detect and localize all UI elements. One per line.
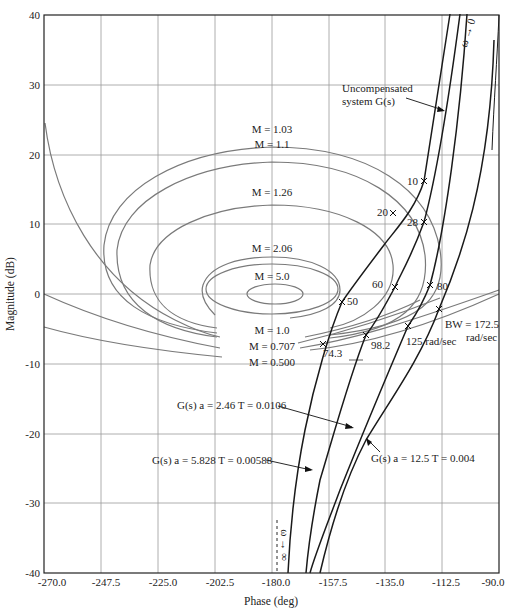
svg-text:-270.0: -270.0 [38,576,67,588]
svg-text:-157.5: -157.5 [319,576,348,588]
svg-text:-135.0: -135.0 [376,576,405,588]
svg-text:M = 0.500: M = 0.500 [249,356,296,368]
svg-text:Uncompensated: Uncompensated [342,82,413,94]
svg-text:-180.0: -180.0 [262,576,291,588]
svg-text:G(s) a = 5.828 T = 0.00588: G(s) a = 5.828 T = 0.00588 [152,454,273,467]
svg-text:-30: -30 [25,497,40,509]
svg-text:0: 0 [35,288,41,300]
m-contour-0-707 [44,294,220,348]
svg-text:-202.5: -202.5 [206,576,235,588]
y-axis-ticks: 40 30 20 10 0 -10 -20 -30 -40 [25,9,40,579]
svg-text:-20: -20 [25,428,40,440]
svg-text:M = 1.0: M = 1.0 [254,324,290,336]
svg-text:-225.0: -225.0 [149,576,178,588]
svg-text:125 rad/sec: 125 rad/sec [406,335,457,347]
svg-text:-90.0: -90.0 [482,576,505,588]
grid-lines [44,15,499,573]
y-axis-title: Magnitude (dB) [4,257,17,331]
svg-text:-10: -10 [25,358,40,370]
m-contour-1-03 [104,147,442,335]
frequency-markers [320,178,442,347]
m-contour-2-06 [202,257,340,318]
svg-text:40: 40 [29,9,41,21]
svg-text:G(s) a = 2.46 T = 0.0106: G(s) a = 2.46 T = 0.0106 [177,399,287,412]
m-contour-1-26 [150,205,393,328]
svg-text:system G(s): system G(s) [342,95,395,108]
svg-text:20: 20 [29,149,41,161]
svg-text:10: 10 [29,218,41,230]
svg-text:10: 10 [407,175,419,187]
x-axis-title: Phase (deg) [244,595,298,608]
svg-text:M = 2.06: M = 2.06 [252,242,293,254]
svg-text:-247.5: -247.5 [92,576,121,588]
svg-text:28: 28 [407,216,419,228]
svg-text:ω → 0: ω → 0 [457,17,478,49]
svg-text:G(s) a = 12.5 T = 0.004: G(s) a = 12.5 T = 0.004 [371,452,475,465]
m-contour-0-500 [44,327,222,357]
nichols-chart: 40 30 20 10 0 -10 -20 -30 -40 -270.0 -24… [0,0,505,613]
svg-text:74.3: 74.3 [323,347,343,359]
svg-text:M = 1.26: M = 1.26 [252,186,293,198]
svg-text:ω → ∞: ω → ∞ [279,529,291,561]
svg-text:rad/sec: rad/sec [466,331,497,343]
svg-text:20: 20 [377,206,389,218]
svg-text:M = 1.1: M = 1.1 [254,138,289,150]
svg-text:M = 0.707: M = 0.707 [249,340,296,352]
svg-text:-112.5: -112.5 [432,576,461,588]
svg-text:80: 80 [437,280,449,292]
svg-text:30: 30 [29,79,41,91]
x-axis-ticks: -270.0 -247.5 -225.0 -202.5 -180.0 -157.… [38,576,505,588]
svg-text:98.2: 98.2 [371,339,390,351]
label-arrows [266,98,445,472]
svg-text:M = 1.03: M = 1.03 [252,123,293,135]
svg-text:M = 5.0: M = 5.0 [254,270,290,282]
svg-text:BW = 172.5: BW = 172.5 [445,318,499,330]
svg-text:50: 50 [347,295,359,307]
svg-text:60: 60 [372,278,384,290]
